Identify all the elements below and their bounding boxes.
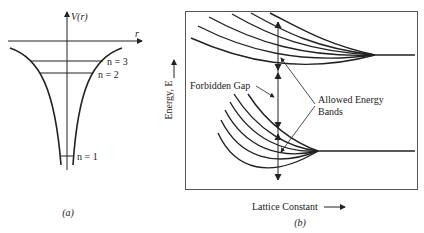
caption-a: (a) [62, 207, 74, 219]
v-axis-label: V(r) [71, 11, 88, 23]
well-left-wall [10, 48, 61, 165]
level-n3-label: n = 3 [107, 56, 128, 67]
r-axis-label: r [135, 28, 139, 39]
y-axis-label: Energy, E [163, 80, 174, 119]
allowed-bands-label-line1: Allowed Energy [318, 94, 384, 105]
lower-band-curves [218, 94, 415, 168]
allowed-bands-label-line2: Bands [318, 106, 343, 117]
upper-band-curves [191, 13, 415, 64]
forbidden-gap-pointer [256, 86, 274, 97]
panel-a-potential-well: V(r) r n = 3 n = 2 n = 1 (a) [8, 11, 142, 219]
forbidden-gap-label: Forbidden Gap [190, 80, 250, 91]
panel-b-energy-bands: Energy, E [163, 12, 418, 230]
figure-canvas: V(r) r n = 3 n = 2 n = 1 (a) Energy, E [0, 0, 424, 233]
level-n1-label: n = 1 [77, 151, 98, 162]
level-n2-label: n = 2 [98, 69, 119, 80]
caption-b: (b) [294, 217, 306, 229]
allowed-pointer-lower [281, 106, 315, 152]
x-axis-label: Lattice Constant [252, 201, 318, 212]
